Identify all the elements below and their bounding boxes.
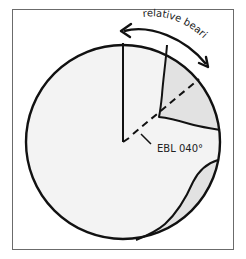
land-mass-upper-right [159,30,230,130]
radar-diagram-svg: relative bearing EBL 040° [0,0,246,259]
ebl-label: EBL 040° [157,143,203,154]
relative-bearing-label: relative bearing [0,0,210,40]
diagram-canvas: relative bearing EBL 040° [0,0,246,259]
